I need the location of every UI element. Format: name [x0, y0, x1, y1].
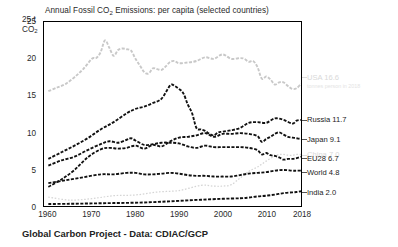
- x-tick-label: 2010: [250, 210, 284, 219]
- series-lines: [44, 22, 301, 206]
- series-leader-world: [302, 172, 307, 173]
- y-tick-label: 5: [14, 165, 36, 174]
- x-tick-label: 1980: [118, 210, 152, 219]
- chart-title-subscript: 2: [110, 10, 113, 16]
- series-line-japan: [48, 132, 301, 186]
- usa-annotation: tonnes person in 2018: [307, 83, 360, 89]
- x-tick-label: 1960: [30, 210, 64, 219]
- series-leader-eu28: [302, 158, 307, 159]
- x-tick-label: 1990: [162, 210, 196, 219]
- y-axis-unit-subscript: 2: [34, 28, 37, 34]
- series-label-india: India 2.0: [307, 188, 336, 197]
- series-label-usa: USA 16.6: [307, 73, 339, 82]
- x-tick-label: 2000: [206, 210, 240, 219]
- series-label-russia: Russia 11.7: [307, 115, 347, 124]
- y-tick-label: 20: [14, 54, 36, 63]
- series-line-usa: [48, 40, 301, 91]
- chart-title: Annual Fossil CO2 Emissions: per capita …: [45, 6, 269, 15]
- footer-credit: Global Carbon Project - Data: CDIAC/GCP: [22, 228, 208, 239]
- series-leader-russia: [302, 120, 307, 121]
- y-axis-unit-co2: CO: [22, 25, 34, 34]
- x-tick-label: 1970: [74, 210, 108, 219]
- series-line-russia: [48, 84, 301, 158]
- y-tick-label: 15: [14, 91, 36, 100]
- chart-title-post: Emissions: per capita (selected countrie…: [113, 6, 269, 15]
- plot-area: [43, 21, 302, 207]
- series-leader-india: [302, 192, 307, 193]
- series-label-japan: Japan 9.1: [307, 135, 340, 144]
- series-leader-japan: [302, 139, 307, 140]
- series-label-world: World 4.8: [307, 168, 339, 177]
- series-label-eu28: EU28 6.7: [307, 154, 339, 163]
- y-tick-label: 25: [14, 17, 36, 26]
- series-line-india: [48, 191, 301, 204]
- y-tick-label: 10: [14, 128, 36, 137]
- series-line-eu28: [48, 138, 301, 165]
- chart-figure: Annual Fossil CO2 Emissions: per capita …: [0, 0, 398, 247]
- chart-title-pre: Annual Fossil CO: [45, 6, 110, 15]
- series-leader-usa: [302, 77, 307, 78]
- series-line-world: [48, 170, 301, 183]
- x-tick-label: 2018: [285, 210, 319, 219]
